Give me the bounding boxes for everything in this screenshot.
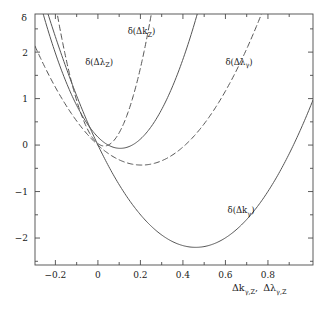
curve-label-main: δ(Δλ [85, 57, 106, 67]
curve-label-tail: ) [251, 205, 254, 215]
y-tick-label: 0 [22, 140, 28, 150]
curve-label-main: δ(Δk [128, 26, 149, 36]
x-axis-label-dk-sub: γ,Z [245, 288, 256, 296]
y-tick-label: −1 [15, 187, 28, 197]
curve-label-3: δ(Δkγ) [228, 205, 255, 218]
curve-label-2: δ(Δλγ) [225, 57, 252, 70]
curve-label-tail: ) [249, 57, 252, 67]
x-tick-label: 0.6 [218, 270, 233, 280]
y-tick-label: −2 [15, 233, 28, 243]
curve-label-tail: ) [152, 26, 155, 36]
axis-ticks [35, 14, 313, 265]
curve-label-0: δ(ΔkZ) [128, 26, 156, 39]
x-axis-label-dk: Δk [232, 282, 245, 293]
x-tick-label: 0.8 [261, 270, 276, 280]
y-tick-label: 2 [22, 48, 28, 58]
curve-series-1 [49, 0, 160, 146]
curve-label-1: δ(ΔλZ) [85, 57, 113, 70]
curve-label-tail: ) [110, 57, 113, 67]
x-axis-label-comma: , [255, 282, 258, 293]
curve-annotations: δ(ΔkZ)δ(ΔλZ)δ(Δλγ)δ(Δkγ) [85, 26, 254, 217]
plot-frame [35, 14, 313, 265]
curve-series-3 [35, 0, 313, 247]
curve-label-main: δ(Δk [228, 205, 249, 215]
plot-area: −0.200.20.40.60.8210−1−2 δ Δkγ,Z,Δλγ,Z δ… [0, 0, 330, 310]
x-axis-label: Δkγ,Z,Δλγ,Z [232, 282, 287, 296]
x-axis-label-dl: Δλ [263, 282, 276, 293]
curve-series-0 [35, 0, 211, 148]
chart-figure: −0.200.20.40.60.8210−1−2 δ Δkγ,Z,Δλγ,Z δ… [0, 0, 330, 310]
axis-tick-labels: −0.200.20.40.60.8210−1−2 [15, 48, 276, 280]
y-axis-label: δ [21, 12, 27, 23]
x-tick-label: 0 [95, 270, 101, 280]
x-tick-label: 0.2 [133, 270, 147, 280]
y-tick-label: 1 [22, 94, 28, 104]
x-tick-label: 0.4 [176, 270, 191, 280]
curves-layer [35, 0, 313, 247]
x-tick-label: −0.2 [44, 270, 66, 280]
x-axis-label-dl-sub: γ,Z [276, 288, 287, 296]
curve-label-main: δ(Δλ [225, 57, 246, 67]
